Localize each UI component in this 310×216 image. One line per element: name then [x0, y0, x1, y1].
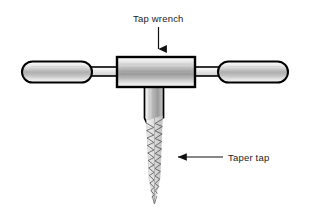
tap-threaded-section: [146, 116, 162, 204]
left-handle: [22, 62, 92, 83]
technical-diagram: Tap wrench Taper tap: [0, 0, 310, 216]
tap-wrench-label: Tap wrench: [133, 13, 184, 24]
wrench-body: [117, 57, 195, 87]
annotation-taper-tap: Taper tap: [178, 152, 269, 163]
taper-tap-label: Taper tap: [228, 152, 269, 163]
right-handle: [218, 62, 288, 83]
annotation-tap-wrench: Tap wrench: [133, 13, 184, 49]
